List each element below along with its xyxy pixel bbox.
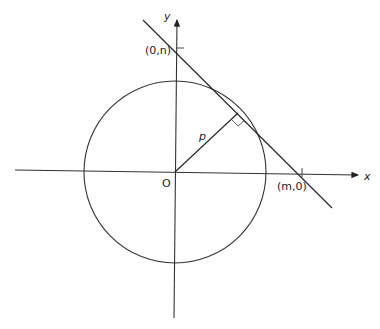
y-axis-label: y xyxy=(163,10,171,23)
x-intercept-label: (m,0) xyxy=(277,180,307,193)
x-axis-label: x xyxy=(363,170,371,183)
origin-label: O xyxy=(162,177,171,190)
y-axis xyxy=(174,20,177,318)
x-axis xyxy=(15,170,358,175)
circle-tangent-diagram: y x O p (0,n) (m,0) xyxy=(0,0,380,329)
y-intercept-label: (0,n) xyxy=(145,44,171,57)
perpendicular-segment xyxy=(175,113,238,172)
perpendicular-label: p xyxy=(198,130,206,143)
